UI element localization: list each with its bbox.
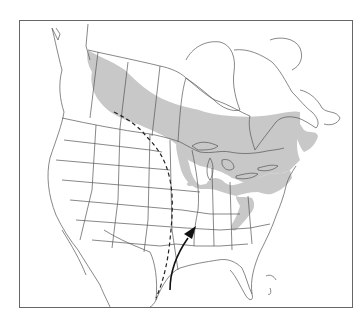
range-map (0, 0, 363, 313)
